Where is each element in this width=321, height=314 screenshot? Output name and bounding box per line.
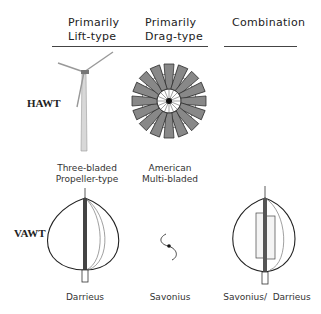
savonius-darrieus-turbine-icon <box>0 0 321 314</box>
caption-savonius-darrieus: Savonius/ Darrieus <box>222 292 312 303</box>
caption-savonius: Savonius <box>140 292 200 303</box>
caption-darrieus: Darrieus <box>55 292 115 303</box>
